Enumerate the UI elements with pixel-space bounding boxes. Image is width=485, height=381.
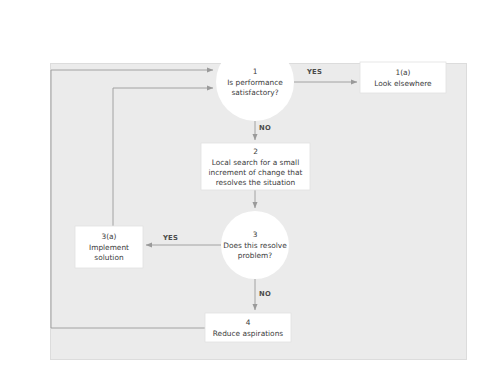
edge-label-yes-top: YES [307, 68, 322, 76]
node-2-shape [201, 143, 310, 190]
node-4-shape [205, 313, 291, 342]
edge-4-loop-to-1 [51, 70, 213, 328]
node-1a-shape [360, 62, 446, 93]
flowchart-canvas [0, 0, 485, 381]
node-3a-shape [75, 226, 143, 268]
edge-label-no-bottom: NO [259, 290, 271, 298]
edge-3a-loop-to-1 [113, 88, 213, 226]
edge-label-yes-mid: YES [163, 234, 178, 242]
flowchart-screenshot: 1 Is performance satisfactory? 1(a) Look… [0, 0, 485, 381]
edge-label-no-top: NO [259, 124, 271, 132]
node-3-shape [221, 211, 289, 279]
node-1-shape [216, 43, 294, 121]
